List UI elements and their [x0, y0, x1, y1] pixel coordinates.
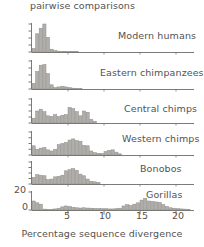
panel-eastern-chimpanzees: Eastern chimpanzees	[0, 57, 204, 93]
x-tick-label-15: 15	[136, 210, 148, 221]
y-axis-partial-label: pairwise comparisons	[30, 0, 135, 11]
x-tick-label-5: 5	[64, 210, 70, 221]
panel-central-chimps: Central chimps	[0, 95, 204, 128]
y-tick-label-20: 20	[14, 184, 26, 195]
panel-modern-humans: Modern humans	[0, 20, 204, 56]
x-tick-label-20: 20	[172, 210, 184, 221]
panel-bonobos: Bonobos	[0, 158, 204, 189]
species-label-gorillas: Gorillas	[146, 189, 183, 200]
figure-container: pairwise comparisons Modern humans Easte…	[0, 0, 204, 247]
species-label-western-chimps: Western chimps	[122, 133, 200, 144]
species-label-central-chimps: Central chimps	[124, 103, 197, 114]
panel-western-chimps: Western chimps	[0, 128, 204, 160]
species-label-eastern-chimpanzees: Eastern chimpanzees	[100, 67, 204, 78]
species-label-modern-humans: Modern humans	[118, 30, 196, 41]
species-label-bonobos: Bonobos	[140, 163, 182, 174]
x-axis-title-text: Percentage sequence divergence	[21, 228, 182, 239]
x-tick-label-10: 10	[99, 210, 111, 221]
panel-gorillas: Gorillas 20 0	[0, 188, 204, 228]
x-axis-title: Percentage sequence divergence	[0, 228, 204, 239]
y-tick-label-0: 0	[22, 201, 28, 212]
